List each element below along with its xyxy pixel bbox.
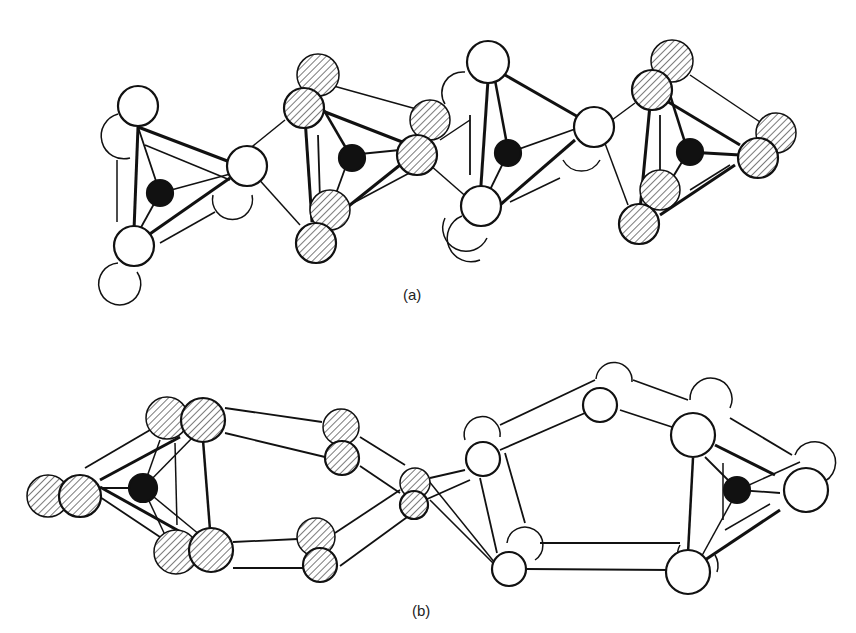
- hatched-atom: [296, 223, 336, 263]
- open-atom: [583, 388, 617, 422]
- hatched-atom: [284, 88, 324, 128]
- central-atom: [147, 180, 173, 206]
- open-atom: [461, 186, 501, 226]
- hatched-atom: [303, 548, 337, 582]
- open-atom: [784, 468, 828, 512]
- hatched-atom: [738, 138, 778, 178]
- open-atom: [574, 107, 614, 147]
- open-atom: [671, 413, 715, 457]
- panel-b-atoms: [27, 388, 828, 594]
- hatched-atom: [323, 409, 359, 445]
- central-atom: [677, 139, 703, 165]
- open-atom: [227, 146, 267, 186]
- hatched-atom: [397, 135, 437, 175]
- hatched-atom: [619, 204, 659, 244]
- hatched-atom: [632, 70, 672, 110]
- central-atom: [129, 474, 157, 502]
- hatched-atom: [325, 441, 359, 475]
- panel-b-back-atoms: [464, 362, 835, 572]
- central-atom: [495, 140, 521, 166]
- hatched-atom: [640, 170, 680, 210]
- open-atom: [118, 86, 158, 126]
- hatched-atom: [189, 528, 233, 572]
- central-atom: [339, 145, 365, 171]
- open-atom: [492, 552, 526, 586]
- open-atom: [666, 550, 710, 594]
- open-atom: [466, 442, 500, 476]
- open-atom: [467, 41, 509, 83]
- open-atom: [114, 226, 154, 266]
- crystal-structure-diagram: [0, 0, 856, 633]
- hatched-atom: [59, 475, 101, 517]
- panel-b-label: (b): [412, 602, 430, 619]
- central-atom: [724, 477, 750, 503]
- hatched-atom: [181, 398, 225, 442]
- hatched-atom: [400, 491, 428, 519]
- panel-a-label: (a): [403, 286, 421, 303]
